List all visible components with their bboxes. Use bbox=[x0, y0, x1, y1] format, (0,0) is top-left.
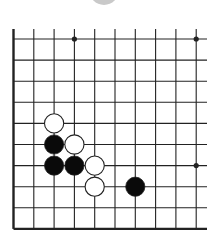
board-grid bbox=[14, 29, 208, 229]
white-stone[interactable] bbox=[85, 156, 104, 175]
star-point bbox=[194, 36, 199, 41]
black-stone[interactable] bbox=[45, 135, 64, 154]
white-stone[interactable] bbox=[65, 135, 84, 154]
black-stone[interactable] bbox=[65, 156, 84, 175]
turn-indicator bbox=[89, 0, 119, 5]
star-point bbox=[194, 163, 199, 168]
indicator-circle bbox=[89, 0, 119, 5]
star-point bbox=[72, 36, 77, 41]
white-stone[interactable] bbox=[45, 114, 64, 133]
go-board[interactable] bbox=[0, 0, 222, 246]
white-stone[interactable] bbox=[85, 177, 104, 196]
black-stone[interactable] bbox=[126, 177, 145, 196]
black-stone[interactable] bbox=[45, 156, 64, 175]
